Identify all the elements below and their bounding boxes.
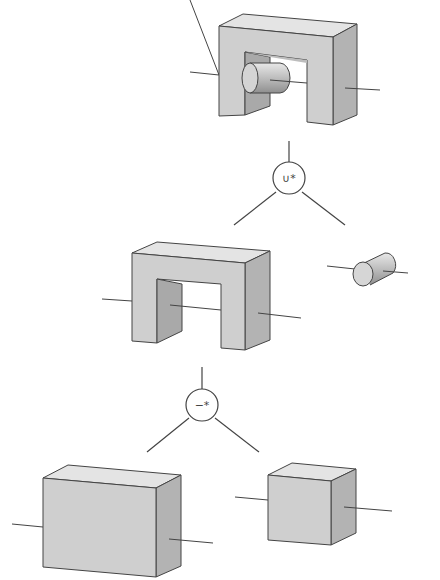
difference-label: −* [195, 399, 210, 412]
axis-line [190, 0, 219, 75]
union-label: ∪* [282, 172, 296, 185]
axis-line-left [190, 72, 219, 75]
cylinder-solid [327, 253, 408, 286]
small-box-solid [235, 463, 392, 545]
result-solid [190, 0, 380, 125]
large-box-solid [12, 465, 213, 577]
u-block-solid [102, 242, 301, 350]
csg-tree-diagram: ∪* −* [0, 0, 440, 580]
